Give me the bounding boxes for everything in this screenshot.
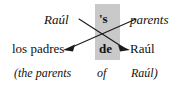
possessive-mapping-figure: Raúl 's parents los padres de Raúl (the … bbox=[0, 0, 192, 85]
english-possessor: Raúl bbox=[44, 13, 69, 26]
literal-possessor: Raúl) bbox=[131, 67, 158, 79]
arrowhead-left bbox=[63, 45, 75, 52]
spanish-possessed: los padres bbox=[12, 42, 64, 55]
spanish-possessive-marker: de bbox=[99, 42, 112, 55]
literal-possessed: (the parents bbox=[14, 67, 71, 79]
literal-marker: of bbox=[97, 67, 106, 79]
spanish-possessor: Raúl bbox=[130, 42, 155, 55]
english-possessed: parents bbox=[130, 13, 169, 26]
english-possessive-marker: 's bbox=[99, 12, 108, 25]
